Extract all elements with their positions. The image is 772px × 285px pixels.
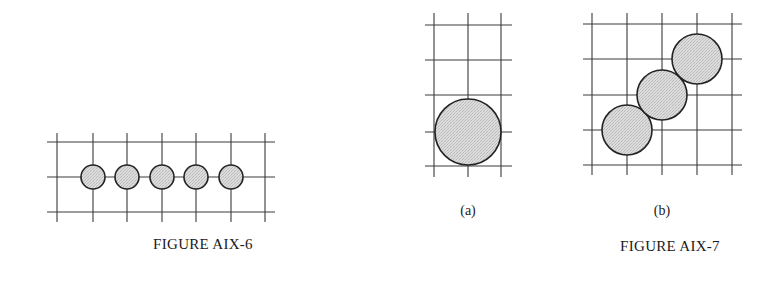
shaded-circle: [81, 165, 105, 189]
shaded-circle: [435, 99, 501, 165]
figure-aix-7a-sublabel: (a): [460, 203, 476, 219]
shaded-circle: [672, 34, 722, 84]
shaded-circle: [219, 165, 243, 189]
figure-aix-7b-grid: [583, 13, 742, 175]
figure-aix-7b-sublabel: (b): [654, 203, 670, 219]
shaded-circle: [184, 165, 208, 189]
shaded-circle: [115, 165, 139, 189]
figure-aix-7-caption: FIGURE AIX-7: [620, 238, 720, 255]
figure-aix-6-grid: [47, 133, 275, 222]
figure-aix-6-caption: FIGURE AIX-6: [153, 236, 253, 253]
shaded-circle: [150, 165, 174, 189]
figure-aix-7a-grid: [425, 13, 512, 177]
